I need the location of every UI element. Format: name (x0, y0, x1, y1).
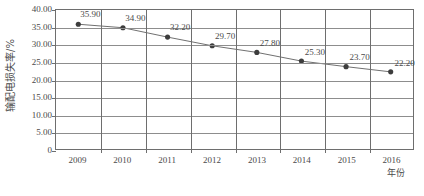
y-axis-tick-mark (52, 45, 56, 46)
vertical-gridline (370, 10, 371, 149)
vertical-gridline (191, 10, 192, 149)
x-axis-tick-mark (280, 149, 281, 153)
x-axis-tick-label: 2015 (338, 155, 356, 165)
y-axis-title-text: 输配电损失率/% (2, 39, 17, 112)
x-axis-tick-label: 2014 (293, 155, 311, 165)
data-point-label: 34.90 (125, 14, 145, 23)
x-axis-tick-label: 2011 (158, 155, 176, 165)
x-axis-tick-label: 2010 (113, 155, 131, 165)
data-point-marker (388, 69, 393, 74)
vertical-gridline (280, 10, 281, 149)
y-axis-tick-mark (52, 28, 56, 29)
y-axis-tick-label: 5.00 (36, 128, 52, 137)
data-point-label: 32.20 (170, 23, 190, 32)
plot-area: 35.9034.9032.2029.7027.8025.3023.7022.20 (55, 9, 414, 150)
data-point-marker (343, 64, 348, 69)
y-axis-tick-mark (52, 116, 56, 117)
y-axis-tick-label: 35.00 (32, 22, 52, 31)
figure-caption (60, 185, 360, 194)
x-axis-tick-mark (370, 149, 371, 153)
y-axis-tick-label: 20.00 (32, 75, 52, 84)
data-point-label: 22.20 (394, 59, 414, 68)
y-axis-tick-label: 25.00 (32, 57, 52, 66)
x-axis-tick-mark (325, 149, 326, 153)
data-point-marker (254, 50, 259, 55)
y-axis-tick-label: 15.00 (32, 93, 52, 102)
y-axis-tick-labels: 40.0035.0030.0025.0020.0015.0010.005.000 (16, 0, 55, 151)
horizontal-gridline (56, 63, 413, 64)
horizontal-gridline (56, 81, 413, 82)
x-axis-tick-label: 2013 (248, 155, 266, 165)
data-point-marker (76, 22, 81, 27)
horizontal-gridline (56, 98, 413, 99)
vertical-gridline (101, 10, 102, 149)
horizontal-gridline (56, 45, 413, 46)
y-axis-tick-mark (52, 98, 56, 99)
y-axis-tick-label: 30.00 (32, 40, 52, 49)
data-point-label: 25.30 (305, 48, 325, 57)
vertical-gridline (325, 10, 326, 149)
data-point-marker (165, 35, 170, 40)
line-chart: 输配电损失率/% 40.0035.0030.0025.0020.0015.001… (0, 0, 424, 196)
vertical-gridline (236, 10, 237, 149)
x-axis-tick-mark (236, 149, 237, 153)
x-axis-tick-mark (146, 149, 147, 153)
data-point-label: 29.70 (215, 32, 235, 41)
x-axis-title: 年份 (387, 168, 405, 178)
x-axis-tick-mark (191, 149, 192, 153)
data-point-label: 23.70 (350, 53, 370, 62)
vertical-gridline (146, 10, 147, 149)
y-axis-tick-label: 40.00 (32, 5, 52, 14)
y-axis-tick-mark (52, 81, 56, 82)
data-point-label: 27.80 (260, 39, 280, 48)
horizontal-gridline (56, 28, 413, 29)
y-axis-tick-mark (52, 10, 56, 11)
x-axis-tick-label: 2012 (203, 155, 221, 165)
y-axis-tick-mark (52, 133, 56, 134)
y-axis-tick-label: 0 (48, 146, 53, 155)
x-axis-tick-mark (101, 149, 102, 153)
x-axis-tick-labels: 20092010201120122013201420152016 (55, 155, 414, 169)
y-axis-tick-mark (52, 63, 56, 64)
y-axis-tick-label: 10.00 (32, 110, 52, 119)
horizontal-gridline (56, 116, 413, 117)
y-axis-tick-mark (52, 151, 56, 152)
data-point-label: 35.90 (80, 10, 100, 19)
x-axis-tick-label: 2016 (383, 155, 401, 165)
x-axis-tick-label: 2009 (68, 155, 86, 165)
horizontal-gridline (56, 133, 413, 134)
